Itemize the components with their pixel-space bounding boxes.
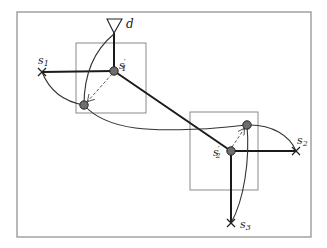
curve-r2-s3 (231, 125, 248, 223)
dashed-arrow-s1prime-r1 (88, 74, 112, 101)
label-s2: s2 (297, 134, 308, 148)
relay-node-s2prime (227, 147, 235, 155)
edge-s1prime-s2prime (114, 71, 231, 151)
edge-s1-s1prime (42, 71, 114, 72)
destination-triangle-icon (107, 19, 122, 33)
curve-r2-s2 (247, 125, 296, 151)
label-s1-prime: s′1 (119, 57, 127, 73)
label-s3: s3 (240, 218, 251, 232)
curve-d-r1 (84, 34, 114, 105)
outer-frame (17, 12, 311, 237)
curve-r1-r2 (84, 105, 247, 130)
label-s1: s1 (38, 54, 49, 68)
relay-node-s1prime (110, 67, 118, 75)
label-s2-prime: s′2 (213, 144, 221, 160)
label-d: d (126, 17, 134, 31)
relay-node-r2 (243, 121, 251, 129)
network-diagram: d s1 s′1 s2 s′2 s3 (0, 0, 327, 248)
curve-s1-r1 (42, 72, 84, 105)
relay-node-r1 (80, 101, 88, 109)
dashed-arrow-s2prime-r2 (232, 129, 244, 147)
